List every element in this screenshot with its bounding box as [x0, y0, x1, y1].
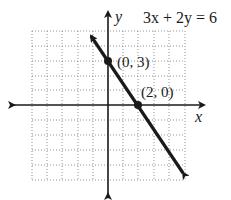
- point-y-intercept: [104, 57, 112, 65]
- x-axis-label: x: [194, 108, 202, 125]
- point-label-y-intercept: (0, 3): [117, 54, 150, 71]
- equation-label: 3x + 2y = 6: [143, 9, 217, 27]
- point-label-x-intercept: (2, 0): [141, 84, 174, 101]
- point-x-intercept: [134, 101, 142, 109]
- graph: y x 3x + 2y = 6 (0, 3) (2, 0): [0, 0, 231, 200]
- y-axis-label: y: [113, 8, 123, 26]
